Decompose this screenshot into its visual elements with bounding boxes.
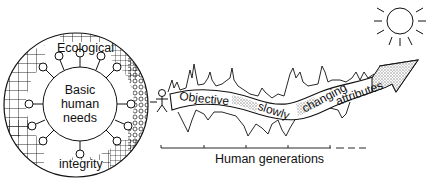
label-human: human xyxy=(60,97,100,111)
label-needs: needs xyxy=(60,111,100,125)
human-figure-icon xyxy=(150,90,168,113)
sun-icon xyxy=(374,8,426,46)
label-basic-human-needs: Basic human needs xyxy=(60,83,100,125)
label-integrity: integrity xyxy=(59,158,103,171)
timeline-label: Human generations xyxy=(215,153,324,166)
label-ecological: Ecological xyxy=(57,42,114,55)
label-basic: Basic xyxy=(60,83,100,97)
ecology-diagram: Ecological integrity Basic human needs O… xyxy=(0,0,436,182)
generations-timeline xyxy=(161,145,366,148)
